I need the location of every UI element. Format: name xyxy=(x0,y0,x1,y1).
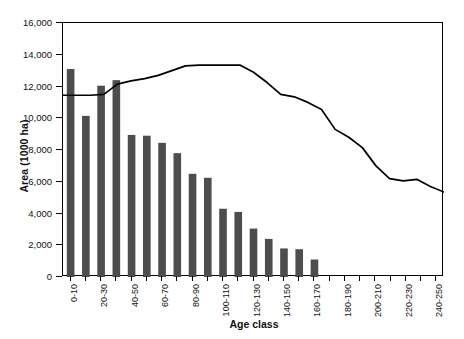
x-axis-tick-mark xyxy=(329,276,330,281)
plot-area xyxy=(62,22,443,276)
x-axis-tick-label: 60-70 xyxy=(165,257,175,282)
x-axis-tick-mark xyxy=(207,276,208,281)
x-axis-tick-mark xyxy=(192,276,193,281)
x-axis-tick-label: 0-10 xyxy=(74,262,84,282)
y-axis-tick-mark xyxy=(56,276,62,277)
x-axis-tick-mark xyxy=(268,276,269,281)
x-axis-tick-mark xyxy=(420,276,421,281)
x-axis-tick-mark xyxy=(222,276,223,281)
x-axis-tick-label: 40-50 xyxy=(135,257,145,282)
x-axis-tick-mark xyxy=(100,276,101,281)
y-axis-tick-label: 12,000 xyxy=(0,80,52,91)
y-axis-tick-label: 4,000 xyxy=(0,207,52,218)
x-axis-tick-label: 120-130 xyxy=(257,247,267,282)
x-axis-tick-mark xyxy=(253,276,254,281)
x-axis-tick-mark xyxy=(359,276,360,281)
x-axis-tick-label: 20-30 xyxy=(104,257,114,282)
x-axis-tick-mark xyxy=(237,276,238,281)
x-axis-tick-mark xyxy=(405,276,406,281)
x-axis-tick-label: 160-170 xyxy=(317,247,327,282)
x-axis-tick-mark xyxy=(176,276,177,281)
bar xyxy=(113,80,121,277)
x-axis-tick-mark xyxy=(115,276,116,281)
line-series xyxy=(63,65,444,192)
x-axis-tick-mark xyxy=(146,276,147,281)
x-axis-tick-label: 180-190 xyxy=(348,247,358,282)
x-axis-tick-mark xyxy=(70,276,71,281)
x-axis-tick-mark xyxy=(298,276,299,281)
x-axis-tick-mark xyxy=(435,276,436,281)
bar-series xyxy=(67,69,318,277)
x-axis-tick-label: 240-250 xyxy=(439,247,449,282)
y-axis-tick-label: 6,000 xyxy=(0,175,52,186)
x-axis-tick-label: 200-210 xyxy=(378,247,388,282)
chart-figure: Area (1000 ha) 02,0004,0006,0008,00010,0… xyxy=(0,0,464,339)
bar xyxy=(143,136,151,277)
x-axis-tick-label: 220-230 xyxy=(409,247,419,282)
x-axis-tick-mark xyxy=(161,276,162,281)
y-axis-tick-label: 14,000 xyxy=(0,48,52,59)
y-axis-tick-label: 8,000 xyxy=(0,144,52,155)
bar xyxy=(82,116,90,277)
bar xyxy=(67,69,75,277)
x-axis-tick-label: 100-110 xyxy=(226,248,236,282)
x-axis-tick-mark xyxy=(283,276,284,281)
x-axis-tick-label: 140-150 xyxy=(287,247,297,282)
x-axis-tick-mark xyxy=(344,276,345,281)
chart-canvas xyxy=(63,23,444,277)
y-axis-tick-label: 10,000 xyxy=(0,112,52,123)
x-axis-tick-mark xyxy=(85,276,86,281)
bar xyxy=(97,86,105,277)
x-axis-tick-mark xyxy=(313,276,314,281)
x-axis-tick-mark xyxy=(131,276,132,281)
y-axis-tick-label: 2,000 xyxy=(0,239,52,250)
x-axis-title: Age class xyxy=(0,318,464,330)
x-axis-tick-mark xyxy=(390,276,391,281)
bar xyxy=(128,135,136,277)
x-axis-tick-mark xyxy=(374,276,375,281)
y-axis-tick-label: 16,000 xyxy=(0,17,52,28)
x-axis-tick-label: 80-90 xyxy=(196,257,206,282)
y-axis-tick-label: 0 xyxy=(0,271,52,282)
